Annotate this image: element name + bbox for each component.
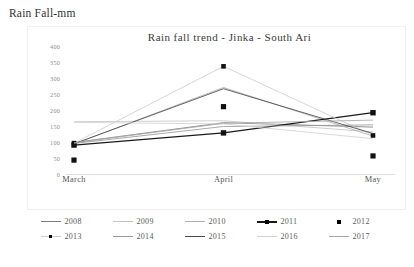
y-axis-tick: 300 xyxy=(36,75,60,82)
legend-line-2017 xyxy=(329,236,349,237)
legend-key-2017 xyxy=(328,232,350,241)
legend-line-2014 xyxy=(113,236,133,237)
legend-item-2008[interactable]: 2008 xyxy=(37,217,109,226)
series-2010 xyxy=(74,87,373,144)
y-axis-tick: 200 xyxy=(36,107,60,114)
y-axis-tick: 350 xyxy=(36,59,60,66)
legend-item-2014[interactable]: 2014 xyxy=(109,232,181,241)
legend-label-2017: 2017 xyxy=(353,232,370,241)
legend-label-2008: 2008 xyxy=(65,217,82,226)
legend-item-2015[interactable]: 2015 xyxy=(181,232,253,241)
legend-label-2016: 2016 xyxy=(281,232,298,241)
chart-container: Rain fall trend - Jinka - South Ari 4003… xyxy=(27,26,406,210)
legend-label-2011: 2011 xyxy=(281,217,298,226)
legend-key-2008 xyxy=(40,217,62,226)
y-axis-tick: 100 xyxy=(36,139,60,146)
data-point-2011-May xyxy=(370,110,375,115)
chart-legend: 20082009201020112012 2013201420152016201… xyxy=(27,214,406,254)
data-point-2011-April xyxy=(221,130,226,135)
legend-item-2013[interactable]: 2013 xyxy=(37,232,109,241)
x-axis-tick: March xyxy=(34,175,114,184)
legend-marker-2012 xyxy=(337,220,341,224)
data-point-2013-April xyxy=(221,64,226,69)
legend-row: 20082009201020112012 xyxy=(27,214,406,229)
y-axis-title: Rain Fall-mm xyxy=(9,7,76,19)
legend-item-2016[interactable]: 2016 xyxy=(253,232,325,241)
legend-key-2014 xyxy=(112,232,134,241)
legend-key-2009 xyxy=(112,217,134,226)
legend-label-2013: 2013 xyxy=(65,232,82,241)
legend-item-2012[interactable]: 2012 xyxy=(325,217,397,226)
legend-row: 20132014201520162017 xyxy=(27,229,406,244)
y-axis-tick: 250 xyxy=(36,91,60,98)
legend-label-2009: 2009 xyxy=(137,217,154,226)
legend-item-2011[interactable]: 2011 xyxy=(253,217,325,226)
legend-marker-2013 xyxy=(49,235,52,238)
legend-label-2015: 2015 xyxy=(209,232,226,241)
legend-key-2012 xyxy=(328,217,350,226)
x-axis-tick: May xyxy=(333,175,413,184)
legend-line-2015 xyxy=(185,236,205,237)
x-axis-tick: April xyxy=(184,175,264,184)
legend-marker-2011 xyxy=(265,220,269,224)
legend-line-2009 xyxy=(113,221,133,222)
legend-key-2016 xyxy=(256,232,278,241)
legend-line-2008 xyxy=(41,221,61,222)
data-point-2012-May xyxy=(370,153,375,158)
legend-label-2012: 2012 xyxy=(353,217,370,226)
legend-line-2010 xyxy=(185,221,205,222)
legend-key-2010 xyxy=(184,217,206,226)
legend-item-2017[interactable]: 2017 xyxy=(325,232,397,241)
data-point-2012-March xyxy=(71,158,76,163)
y-axis-tick: 150 xyxy=(36,123,60,130)
legend-item-2009[interactable]: 2009 xyxy=(109,217,181,226)
series-line-2010 xyxy=(74,87,373,144)
legend-label-2010: 2010 xyxy=(209,217,226,226)
legend-label-2014: 2014 xyxy=(137,232,154,241)
data-point-2013-May xyxy=(371,133,376,138)
legend-key-2015 xyxy=(184,232,206,241)
legend-key-2011 xyxy=(256,217,278,226)
y-axis-tick: 50 xyxy=(36,155,60,162)
data-point-2012-April xyxy=(221,104,226,109)
legend-line-2016 xyxy=(257,236,277,237)
y-axis-tick: 400 xyxy=(36,43,60,50)
legend-item-2010[interactable]: 2010 xyxy=(181,217,253,226)
legend-key-2013 xyxy=(40,232,62,241)
